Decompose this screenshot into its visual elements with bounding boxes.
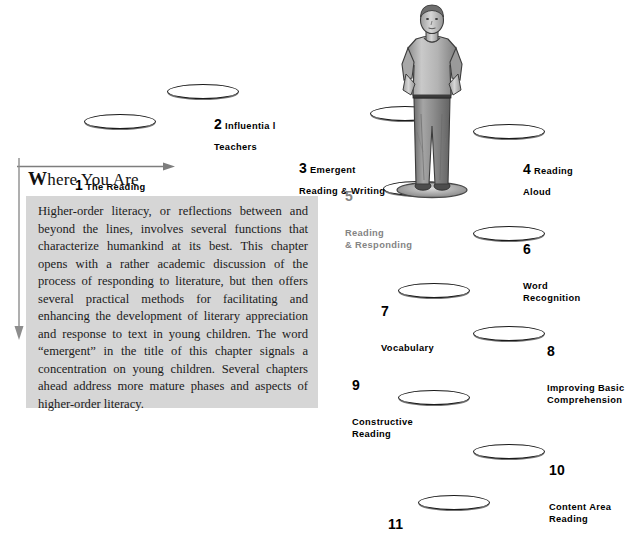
step-label-9: 9 Constructive Reading [352,355,447,461]
vertical-arrow-icon [12,158,26,340]
step-number-2: 2 [214,116,222,132]
step-number-9: 9 [352,376,447,394]
page-title-rest: here You Are [47,170,139,189]
step-label-8: 8 Improving Basic Comprehension [547,321,629,427]
step-label-4: 4Reading Aloud [523,116,613,222]
step-text-8: Improving Basic Comprehension [547,382,629,407]
step-number-6: 6 [523,240,613,258]
step-number-10: 10 [549,461,629,479]
step-label-11: 11 [388,494,483,533]
callout-body-text: Higher-order literacy, or reflections be… [38,203,308,413]
step-text-5: Reading & Responding [345,227,455,252]
stone-10 [473,444,545,459]
step-number-11: 11 [388,515,483,533]
step-text-7: Vocabulary [381,342,476,354]
page-title: Where You Are [28,168,139,190]
step-text-6: Word Recognition [523,280,613,305]
drop-cap: W [28,168,47,189]
step-text-2: Influentia l Teachers [214,121,276,152]
step-label-6: 6 Word Recognition [523,219,613,325]
step-text-10: Content Area Reading [549,501,629,526]
standing-man-figure [376,2,488,202]
step-number-8: 8 [547,342,629,360]
step-number-3: 3 [299,160,307,176]
step-text-9: Constructive Reading [352,416,447,441]
stone-1 [84,114,156,129]
step-number-4: 4 [523,161,531,177]
step-label-10: 10 Content Area Reading [549,440,629,533]
step-number-7: 7 [381,302,476,320]
stone-8 [473,326,545,341]
